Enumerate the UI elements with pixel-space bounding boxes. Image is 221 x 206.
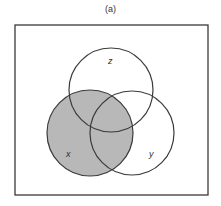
set-z-label: z [107,56,113,66]
set-x-label: x [65,149,71,159]
venn-diagram: z x y [0,0,221,206]
set-y-label: y [148,149,154,159]
